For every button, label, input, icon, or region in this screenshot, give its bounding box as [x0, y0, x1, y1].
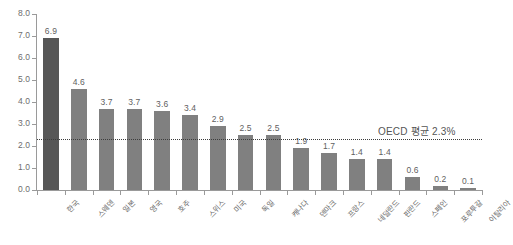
y-tick-label: 8.0 — [18, 8, 30, 18]
category-label: 포루투갈 — [457, 197, 485, 225]
category-label: 독일 — [259, 197, 277, 215]
bar-value-label: 2.9 — [212, 114, 224, 124]
bar-slot: 1.4 — [371, 14, 399, 190]
category-label: 캐나다 — [289, 197, 312, 220]
category-label: 핀란드 — [400, 197, 423, 220]
bar-slot: 2.5 — [260, 14, 288, 190]
bar: 1.4 — [377, 159, 393, 190]
category-label: 스페인 — [428, 197, 451, 220]
bar: 0.2 — [433, 186, 449, 190]
bar-value-label: 2.5 — [267, 123, 279, 133]
category-label: 덴마크 — [316, 197, 339, 220]
x-tick-mark — [426, 190, 427, 195]
bar-value-label: 2.5 — [240, 123, 252, 133]
y-tick-label: 4.0 — [18, 96, 30, 106]
oecd-average-label: OECD 평균 2.3% — [378, 123, 456, 138]
bar: 2.5 — [238, 135, 254, 190]
bar-slot: 0.6 — [399, 14, 427, 190]
bar-series: 6.94.63.73.73.63.42.92.52.51.91.71.41.40… — [37, 14, 482, 190]
bar: 0.1 — [460, 188, 476, 190]
y-tick-label: 5.0 — [18, 74, 30, 84]
x-tick-mark — [315, 190, 316, 195]
x-tick-mark — [343, 190, 344, 195]
bar-value-label: 3.6 — [156, 99, 168, 109]
bar: 1.9 — [293, 148, 309, 190]
category-label: 프랑스 — [344, 197, 367, 220]
bar: 6.9 — [43, 38, 59, 190]
y-tick-label: 0.0 — [18, 184, 30, 194]
y-tick-label: 7.0 — [18, 30, 30, 40]
x-tick-mark — [37, 190, 38, 195]
bar-value-label: 0.6 — [406, 165, 418, 175]
bar-slot: 3.4 — [176, 14, 204, 190]
bar-slot: 0.2 — [426, 14, 454, 190]
x-tick-mark — [148, 190, 149, 195]
oecd-average-reference-line — [37, 139, 482, 140]
x-tick-mark — [454, 190, 455, 195]
bar: 2.9 — [210, 126, 226, 190]
bar-value-label: 3.7 — [100, 97, 112, 107]
bar-slot: 3.6 — [148, 14, 176, 190]
bar: 1.4 — [349, 159, 365, 190]
bar-slot: 6.9 — [37, 14, 65, 190]
bar: 1.7 — [321, 153, 337, 190]
x-tick-mark — [120, 190, 121, 195]
bar: 3.4 — [182, 115, 198, 190]
y-tick-label: 2.0 — [18, 140, 30, 150]
x-tick-mark — [65, 190, 66, 195]
bar-value-label: 0.1 — [462, 176, 474, 186]
category-label: 네덜란드 — [374, 197, 402, 225]
category-label: 스위스 — [205, 197, 228, 220]
x-tick-mark — [287, 190, 288, 195]
bar-slot: 1.4 — [343, 14, 371, 190]
bar-value-label: 4.6 — [73, 77, 85, 87]
bar-slot: 3.7 — [120, 14, 148, 190]
bar-value-label: 6.9 — [45, 26, 57, 36]
bar-value-label: 3.4 — [184, 103, 196, 113]
category-label: 호주 — [175, 197, 193, 215]
bar-value-label: 1.4 — [351, 147, 363, 157]
bar-slot: 2.5 — [232, 14, 260, 190]
category-label: 이탈리아 — [485, 197, 513, 225]
y-tick-label: 3.0 — [18, 118, 30, 128]
x-tick-mark — [482, 190, 483, 195]
bar-slot: 4.6 — [65, 14, 93, 190]
bar-slot: 2.9 — [204, 14, 232, 190]
bar-slot: 0.1 — [454, 14, 482, 190]
bar-value-label: 0.2 — [434, 174, 446, 184]
bar: 3.7 — [99, 109, 115, 190]
bar-value-label: 1.4 — [379, 147, 391, 157]
x-tick-mark — [176, 190, 177, 195]
bar: 0.6 — [405, 177, 421, 190]
bar: 3.7 — [127, 109, 143, 190]
x-tick-mark — [93, 190, 94, 195]
bar: 2.5 — [266, 135, 282, 190]
x-tick-mark — [232, 190, 233, 195]
bar-slot: 1.9 — [287, 14, 315, 190]
y-tick-label: 1.0 — [18, 162, 30, 172]
category-label: 한국 — [64, 197, 82, 215]
x-tick-mark — [371, 190, 372, 195]
category-label: 일본 — [120, 197, 138, 215]
bar-value-label: 1.9 — [295, 136, 307, 146]
x-tick-mark — [260, 190, 261, 195]
x-tick-mark — [399, 190, 400, 195]
category-label: 미국 — [231, 197, 249, 215]
category-label: 영국 — [147, 197, 165, 215]
bar-value-label: 3.7 — [128, 97, 140, 107]
category-label: 스웨덴 — [94, 197, 117, 220]
bar-slot: 1.7 — [315, 14, 343, 190]
y-tick-label: 6.0 — [18, 52, 30, 62]
bar-slot: 3.7 — [93, 14, 121, 190]
x-tick-mark — [204, 190, 205, 195]
bar: 3.6 — [154, 111, 170, 190]
bar-value-label: 1.7 — [323, 141, 335, 151]
